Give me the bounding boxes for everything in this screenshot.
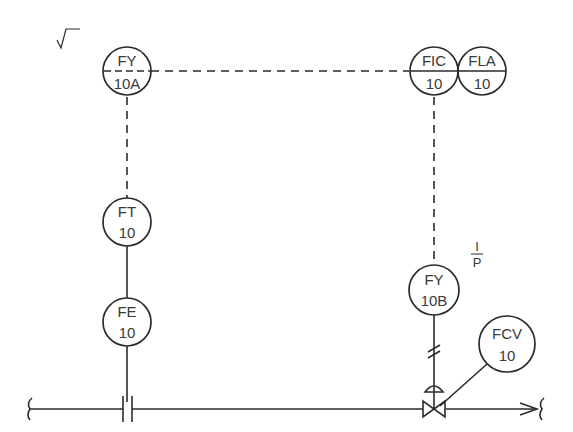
instrument-fy10b[interactable]: FY 10B (409, 265, 459, 315)
ft10-number-label: 10 (119, 224, 136, 241)
process-line (28, 398, 544, 420)
fe10-function-label: FE (117, 303, 136, 320)
fla10-number-label: 10 (474, 75, 491, 92)
instrument-fy10a[interactable]: FY 10A (103, 47, 151, 95)
square-root-icon (57, 29, 80, 48)
instrument-fcv10[interactable]: FCV 10 (479, 316, 535, 372)
fcv10-number-label: 10 (499, 347, 516, 364)
instrument-ft10[interactable]: FT 10 (103, 198, 151, 246)
fy10b-function-label: FY (424, 271, 443, 288)
ip-top-label: I (475, 239, 479, 254)
fe10-number-label: 10 (119, 324, 136, 341)
fic10-number-label: 10 (426, 75, 443, 92)
ip-bottom-label: P (473, 255, 482, 270)
pipe-break-right-icon (540, 398, 544, 420)
pid-diagram: FY 10A FIC 10 FLA 10 FT 10 FE 10 FY 10B … (0, 0, 573, 432)
fla10-function-label: FLA (468, 52, 496, 69)
fy10a-function-label: FY (117, 52, 136, 69)
fy10a-number-label: 10A (114, 75, 141, 92)
i-to-p-annotation: I P (471, 239, 483, 270)
instrument-fe10[interactable]: FE 10 (103, 298, 151, 346)
ft10-function-label: FT (118, 203, 136, 220)
instrument-fla10[interactable]: FLA 10 (458, 47, 506, 95)
fic10-function-label: FIC (422, 52, 446, 69)
instrument-fic10[interactable]: FIC 10 (410, 47, 458, 95)
fcv10-leader-line (440, 364, 487, 406)
fcv10-function-label: FCV (492, 325, 522, 342)
fy10b-number-label: 10B (421, 292, 448, 309)
